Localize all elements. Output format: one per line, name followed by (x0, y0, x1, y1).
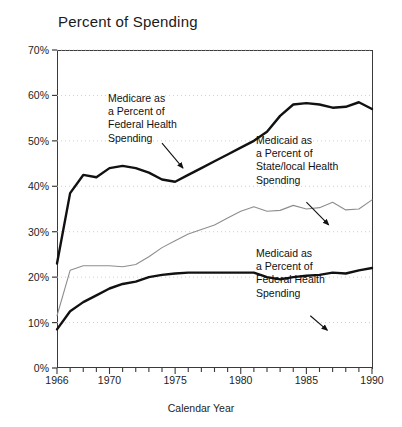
x-tick-label: 1985 (295, 374, 318, 386)
y-tick-label: 60% (9, 89, 49, 101)
y-tick-label: 50% (9, 135, 49, 147)
x-tick-label: 1975 (163, 374, 186, 386)
y-tick-label: 20% (9, 271, 49, 283)
y-tick-label: 40% (9, 180, 49, 192)
annotation-medicaid-federal: Medicaid as a Percent of Federal Health … (256, 247, 325, 300)
x-tick-label: 1966 (45, 374, 68, 386)
y-tick-label: 70% (9, 44, 49, 56)
annotation-medicare: Medicare as a Percent of Federal Health … (108, 92, 177, 145)
y-axis-ticks (52, 50, 57, 368)
x-tick-label: 1980 (229, 374, 252, 386)
y-tick-label: 30% (9, 226, 49, 238)
annotation-medicaid-state-local: Medicaid as a Percent of State/local Hea… (256, 134, 338, 187)
x-tick-label: 1990 (360, 374, 383, 386)
chart-canvas (0, 0, 402, 427)
y-tick-label: 10% (9, 317, 49, 329)
chart-root: Percent of Spending 0%10%20%30%40%50%60%… (0, 0, 402, 427)
x-tick-label: 1970 (98, 374, 121, 386)
x-axis-title: Calendar Year (0, 402, 402, 414)
y-tick-label: 0% (9, 362, 49, 374)
